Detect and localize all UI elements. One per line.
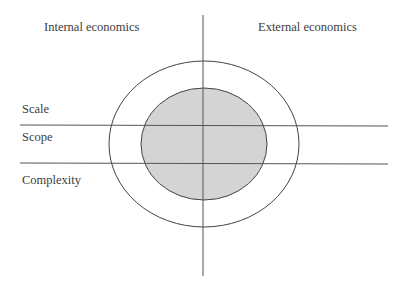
label-internal-economics: Internal economics [44, 20, 139, 34]
label-scope: Scope [22, 130, 53, 144]
label-scale: Scale [22, 102, 49, 116]
inner-ellipse [141, 88, 267, 200]
horizontal-line-top [20, 125, 388, 126]
diagram-canvas [0, 0, 407, 292]
label-external-economics: External economics [258, 20, 357, 34]
label-complexity: Complexity [22, 173, 81, 187]
horizontal-line-bottom [20, 163, 388, 164]
